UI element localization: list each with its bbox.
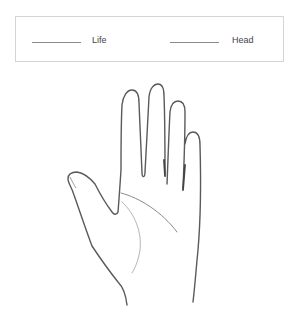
hand-diagram — [0, 0, 304, 326]
head-line — [121, 193, 177, 232]
hand-outline — [68, 84, 201, 305]
life-line — [122, 202, 140, 273]
middle-ring-crease — [164, 160, 165, 176]
